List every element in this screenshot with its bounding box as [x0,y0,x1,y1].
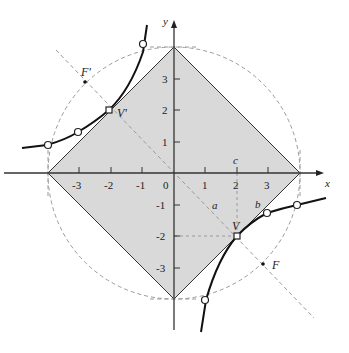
svg-text:-2: -2 [156,230,165,242]
svg-text:2: 2 [233,179,239,191]
svg-text:3: 3 [264,179,270,191]
x-axis-arrow-icon [316,170,324,176]
svg-text:1: 1 [162,136,168,148]
y-axis-arrow-icon [171,20,177,28]
point-marker [202,297,209,304]
b-label: b [255,198,261,210]
x-axis-label: x [324,177,330,189]
focus-label: F [271,258,280,272]
svg-text:1: 1 [202,179,208,191]
a-label: a [212,199,218,211]
svg-text:0: 0 [163,179,169,191]
c-label: c [233,154,238,166]
focus-prime-point [83,80,87,84]
y-axis-label: y [162,15,168,27]
svg-text:-2: -2 [104,179,113,191]
svg-text:-3: -3 [156,262,166,274]
vertex-prime-marker [106,107,112,113]
svg-text:-1: -1 [156,199,165,211]
point-marker [140,41,147,48]
svg-text:-1: -1 [136,179,145,191]
svg-text:3: 3 [162,73,168,85]
svg-text:2: 2 [162,104,168,116]
point-marker [45,142,52,149]
svg-text:-3: -3 [72,179,82,191]
point-marker [294,202,301,209]
focus-point [261,262,265,266]
vertex-prime-label: V' [117,106,127,120]
focus-prime-label: F' [80,65,91,79]
point-marker [75,129,82,136]
vertex-marker [234,233,240,239]
hyperbola-diagram: -3 -2 -1 0 1 2 3 3 2 1 -1 -2 -3 x y F' V… [0,0,349,353]
point-marker [264,210,271,217]
